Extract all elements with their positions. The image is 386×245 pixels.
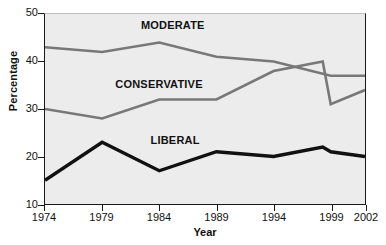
series-label-conservative: CONSERVATIVE	[115, 78, 202, 90]
y-tick-label: 20	[8, 151, 38, 162]
y-tick-label: 50	[8, 7, 38, 18]
x-tick-label: 1984	[147, 212, 171, 223]
series-line-liberal	[45, 142, 365, 180]
x-tick-label: 1999	[319, 212, 343, 223]
series-line-conservative	[45, 62, 365, 119]
series-label-liberal: LIBERAL	[151, 134, 200, 146]
series-label-moderate: MODERATE	[141, 19, 205, 31]
plot-svg	[45, 14, 365, 204]
y-tick-label: 10	[8, 199, 38, 210]
line-chart: Percentage 1020304050 MODERATECONSERVATI…	[0, 0, 386, 245]
y-tick-label: 30	[8, 103, 38, 114]
x-tick-label: 1994	[262, 212, 286, 223]
x-tick-label: 1979	[89, 212, 113, 223]
y-tick-label: 40	[8, 55, 38, 66]
x-tick-label: 1989	[204, 212, 228, 223]
plot-area	[44, 13, 366, 205]
y-axis-tick-labels: 1020304050	[0, 0, 38, 245]
x-tick-label: 2002	[354, 212, 378, 223]
series-line-moderate	[45, 43, 365, 76]
x-tick-label: 1974	[32, 212, 56, 223]
series-layer	[45, 43, 365, 181]
x-axis-title: Year	[44, 226, 366, 238]
